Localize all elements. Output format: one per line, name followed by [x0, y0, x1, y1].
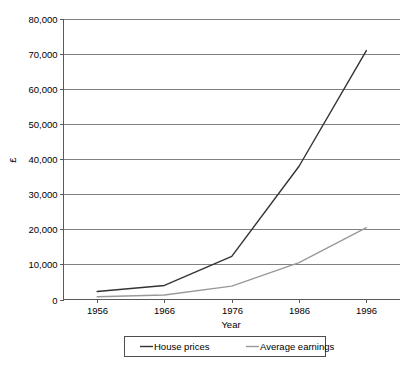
- chart-background: [0, 0, 415, 368]
- y-tick-label: 10,000: [28, 259, 57, 270]
- x-tick-label: 1986: [289, 305, 310, 316]
- legend-label-1: Average earnings: [260, 341, 335, 352]
- x-tick-label: 1956: [87, 305, 108, 316]
- y-tick-label: 40,000: [28, 154, 57, 165]
- y-tick-label: 80,000: [28, 14, 57, 25]
- x-tick-label: 1996: [356, 305, 377, 316]
- x-tick-label: 1966: [154, 305, 175, 316]
- y-tick-label: 0: [52, 295, 57, 306]
- y-tick-label: 70,000: [28, 49, 57, 60]
- y-tick-label: 30,000: [28, 189, 57, 200]
- y-tick-label: 50,000: [28, 119, 57, 130]
- x-axis-title: Year: [221, 319, 240, 330]
- y-axis-title: £: [7, 157, 18, 163]
- y-tick-label: 20,000: [28, 224, 57, 235]
- y-axis-tick-labels: 010,00020,00030,00040,00050,00060,00070,…: [28, 14, 57, 306]
- legend-label-0: House prices: [154, 341, 210, 352]
- y-tick-label: 60,000: [28, 84, 57, 95]
- line-chart: 010,00020,00030,00040,00050,00060,00070,…: [0, 0, 415, 368]
- chart-canvas: 010,00020,00030,00040,00050,00060,00070,…: [0, 0, 415, 368]
- x-tick-label: 1976: [222, 305, 243, 316]
